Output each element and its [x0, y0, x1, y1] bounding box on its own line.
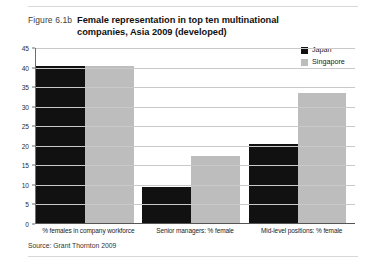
chart-plot-area: 051015202530354045 % females in company … — [16, 48, 361, 230]
y-axis: 051015202530354045 — [16, 48, 32, 224]
figure-number: Figure 6.1b — [28, 14, 72, 26]
figure-page: Figure 6.1bFemale representation in top … — [0, 0, 373, 265]
bar-singapore — [298, 93, 347, 222]
x-axis-category-label: % females in company workforce — [35, 227, 142, 235]
bar-groups — [36, 48, 355, 223]
x-axis-category-label: Mid-level positions: % female — [248, 227, 355, 235]
figure-title: Female representation in top ten multina… — [77, 14, 329, 38]
gridline — [36, 107, 355, 108]
bar-group — [142, 48, 248, 223]
bar-japan — [249, 144, 298, 222]
figure-heading: Figure 6.1bFemale representation in top … — [28, 14, 348, 38]
plot-canvas — [35, 48, 355, 224]
gridline — [36, 48, 355, 49]
bar-singapore — [85, 66, 134, 222]
gridline — [36, 126, 355, 127]
y-axis-tick-label: 40 — [15, 64, 29, 71]
y-axis-tick-label: 0 — [15, 221, 29, 228]
x-axis-line — [36, 223, 355, 225]
y-axis-tick-label: 45 — [15, 45, 29, 52]
y-axis-tick-label: 5 — [15, 201, 29, 208]
y-axis-tick-label: 25 — [15, 123, 29, 130]
gridline — [36, 146, 355, 147]
top-divider — [28, 6, 358, 7]
gridline — [36, 204, 355, 205]
bottom-divider — [28, 256, 358, 257]
bar-group — [249, 48, 355, 223]
gridline — [36, 165, 355, 166]
y-axis-tick-label: 35 — [15, 84, 29, 91]
y-axis-tick-label: 15 — [15, 162, 29, 169]
y-axis-tick-label: 10 — [15, 181, 29, 188]
gridline — [36, 87, 355, 88]
y-axis-tick-label: 30 — [15, 103, 29, 110]
bar-japan — [36, 66, 85, 222]
x-axis-labels: % females in company workforceSenior man… — [35, 227, 355, 235]
gridline — [36, 68, 355, 69]
source-note: Source: Grant Thornton 2009 — [28, 241, 116, 250]
y-axis-tick-label: 20 — [15, 142, 29, 149]
x-axis-category-label: Senior managers: % female — [142, 227, 249, 235]
gridline — [36, 185, 355, 186]
bar-group — [36, 48, 142, 223]
